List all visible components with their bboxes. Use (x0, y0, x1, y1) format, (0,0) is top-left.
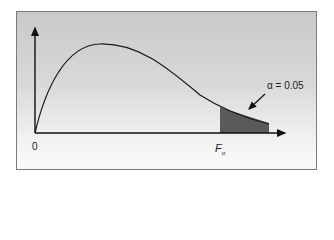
origin-label: 0 (32, 141, 38, 152)
alpha-annotation: α = 0.05 (267, 80, 304, 91)
critical-value-f: F (215, 142, 222, 154)
rejection-region (220, 107, 269, 133)
annotation-arrow (249, 94, 265, 109)
critical-value-label: Fα (215, 142, 225, 156)
critical-value-subscript: α (222, 150, 225, 156)
